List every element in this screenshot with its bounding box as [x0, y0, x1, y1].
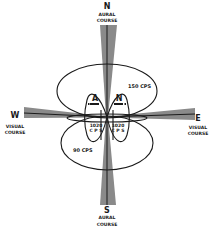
west-course-line1: VISUAL: [6, 124, 24, 129]
lower-lobe-label: 90 CPS: [73, 147, 93, 153]
radio-range-diagram: N AURAL COURSE W VISUAL COURSE E VISUAL …: [0, 0, 211, 229]
a-marker-dash: [90, 103, 99, 105]
left-small-freq-line2: C P S: [90, 128, 103, 133]
right-small-lobe-letter: N: [116, 94, 123, 103]
left-small-lobe-letter: A: [92, 94, 99, 103]
east-course-line1: VISUAL: [189, 125, 207, 130]
course-beams: [24, 25, 195, 205]
north-course-line2: COURSE: [97, 18, 118, 23]
east-label: E: [195, 114, 200, 123]
south-label: S: [104, 206, 110, 215]
upper-lobe-label: 150 CPS: [128, 83, 152, 89]
north-label: N: [104, 2, 111, 11]
west-label: W: [11, 111, 20, 120]
north-course-line1: AURAL: [99, 12, 116, 17]
south-course-line2: COURSE: [97, 222, 118, 227]
east-course-line2: COURSE: [188, 131, 209, 136]
right-small-freq-line2: C P S: [112, 128, 125, 133]
west-course-line2: COURSE: [5, 130, 26, 135]
n-marker-dash: [114, 103, 123, 105]
south-course-line1: AURAL: [99, 215, 116, 220]
